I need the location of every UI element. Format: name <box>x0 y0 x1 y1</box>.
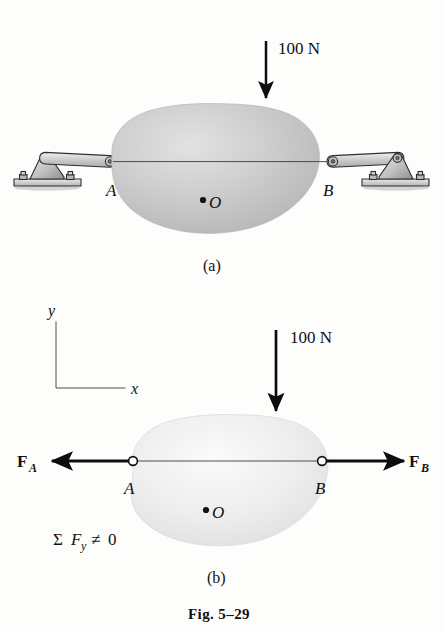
figure-caption: Fig. 5–29 <box>188 606 250 622</box>
equation-sigma: Σ <box>53 530 63 549</box>
text-canvas: 100 N A B O (a) y x 100 N F A F B A B O <box>0 0 443 633</box>
force-label-fa-sub: A <box>28 461 37 475</box>
force-label-fb-sub: B <box>420 461 429 475</box>
equation-relation: ≠ <box>91 530 100 549</box>
axis-label-x: x <box>130 380 138 397</box>
force-label-fa: F A <box>17 452 37 475</box>
point-label-o-a: O <box>209 193 221 212</box>
point-label-b-a: B <box>323 181 334 200</box>
force-label-fa-base: F <box>17 452 27 471</box>
axis-label-y: y <box>46 302 56 320</box>
figure-root: 100 N A B O (a) y x 100 N F A F B A B O <box>0 0 443 633</box>
point-label-b-b: B <box>315 479 326 498</box>
equation-sum-fy: Σ F y ≠ 0 <box>53 530 117 553</box>
force-label-fb: F B <box>409 452 429 475</box>
panel-label-b: (b) <box>207 569 226 587</box>
point-label-a-b: A <box>123 479 135 498</box>
load-label-b: 100 N <box>290 328 332 347</box>
point-label-o-b: O <box>212 503 224 522</box>
force-label-fb-base: F <box>409 452 419 471</box>
point-label-a-a: A <box>105 181 117 200</box>
equation-value: 0 <box>108 530 117 549</box>
equation-subscript: y <box>80 539 87 553</box>
panel-label-a: (a) <box>203 257 221 275</box>
load-label-a: 100 N <box>278 39 320 58</box>
